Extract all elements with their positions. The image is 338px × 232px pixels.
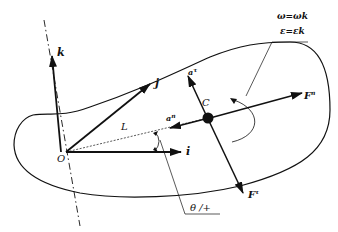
omega-leader-line bbox=[246, 42, 308, 96]
normal-force-label: Fn bbox=[303, 89, 315, 101]
omega-equation: ω=ωk bbox=[277, 11, 308, 21]
theta-label: θ /+ bbox=[190, 202, 211, 213]
i-label: i bbox=[186, 145, 190, 158]
body-outline bbox=[14, 42, 330, 197]
center-of-mass-point bbox=[203, 113, 214, 124]
rigid-body-diagram: k j i O L θ /+ an Fn aτ Fτ C ω=ωk ε=εk bbox=[0, 0, 338, 232]
normal-force-arrow bbox=[210, 93, 302, 118]
tangential-force-label: Fτ bbox=[247, 188, 260, 200]
length-L-label: L bbox=[120, 121, 128, 132]
normal-acceleration-arrow bbox=[170, 119, 205, 128]
epsilon-equation: ε=εk bbox=[280, 26, 305, 36]
tangential-force-arrow bbox=[209, 121, 243, 193]
tangential-acceleration-label: aτ bbox=[188, 66, 198, 77]
normal-acceleration-label: an bbox=[166, 112, 176, 123]
j-label: j bbox=[153, 77, 159, 90]
k-label: k bbox=[57, 46, 65, 59]
center-label: C bbox=[202, 97, 210, 108]
origin-label: O bbox=[57, 153, 65, 164]
k-axis-arrow bbox=[52, 56, 61, 152]
